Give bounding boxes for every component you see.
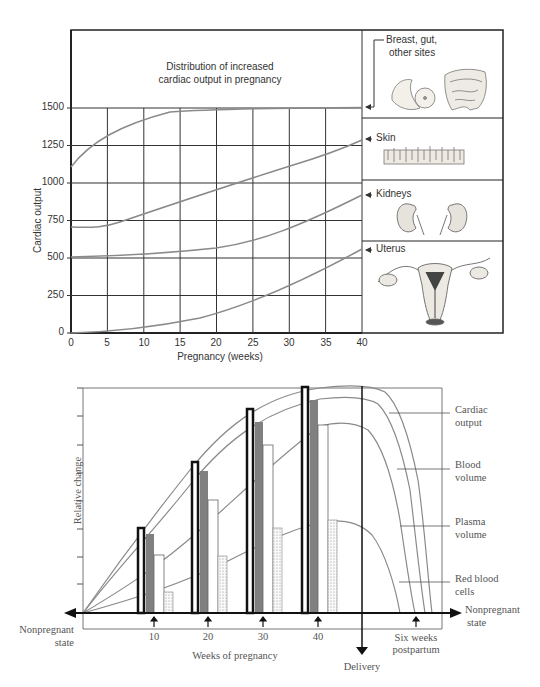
cardiac-line-2: output <box>455 416 488 429</box>
rbc-line-1: Red blood <box>455 572 498 585</box>
left-nonpregnant-state: Nonpregnant state <box>12 623 74 649</box>
delivery-arrow <box>356 386 368 655</box>
postpartum-line-1: Six weeks <box>386 632 446 644</box>
blood-line-1: Blood <box>455 458 487 471</box>
delivery-label: Delivery <box>332 661 392 672</box>
rbc-line-2: cells <box>455 585 498 598</box>
label-plasma-volume: Plasma volume <box>455 515 487 541</box>
week-label-30: 30 <box>253 631 273 642</box>
left-state-line-1: Nonpregnant <box>12 623 74 636</box>
label-cardiac-output: Cardiac output <box>455 403 488 429</box>
blood-line-2: volume <box>455 471 487 484</box>
week-label-40: 40 <box>308 631 328 642</box>
label-red-blood-cells: Red blood cells <box>455 572 498 598</box>
label-blood-volume: Blood volume <box>455 458 487 484</box>
week-label-20: 20 <box>198 631 218 642</box>
curve-rbc <box>83 521 400 613</box>
bottom-y-axis-label: Relative change <box>72 436 83 546</box>
bars-week-20 <box>192 462 227 613</box>
postpartum-line-2: postpartum <box>386 644 446 656</box>
six-weeks-postpartum-label: Six weeks postpartum <box>386 632 446 656</box>
right-state-line-1: Nonpregnant <box>465 603 520 616</box>
plasma-line-1: Plasma <box>455 515 487 528</box>
week-arrows <box>151 617 419 627</box>
bars-week-40 <box>302 387 337 613</box>
cardiac-line-1: Cardiac <box>455 403 488 416</box>
right-nonpregnant-state: Nonpregnant state <box>465 603 520 629</box>
bars-week-10 <box>138 528 173 613</box>
bottom-x-axis-label: Weeks of pregnancy <box>175 650 295 661</box>
right-state-line-2: state <box>465 616 520 629</box>
week-label-10: 10 <box>144 631 164 642</box>
left-state-line-2: state <box>12 636 74 649</box>
bars-week-30 <box>247 409 282 613</box>
plasma-line-2: volume <box>455 528 487 541</box>
